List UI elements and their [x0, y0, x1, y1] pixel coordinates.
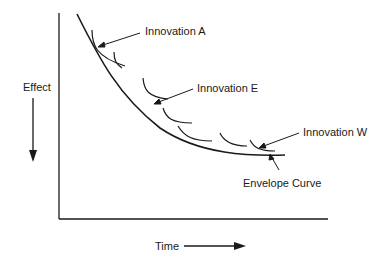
time-arrow-icon — [184, 242, 246, 250]
y-axis-label: Effect — [23, 81, 51, 93]
innovation-w-label: Innovation W — [303, 126, 367, 138]
effect-arrow-icon — [29, 98, 37, 162]
envelope-curve-label: Envelope Curve — [243, 177, 321, 189]
innovation-e-label: Innovation E — [197, 82, 258, 94]
annotation-arrows — [98, 33, 299, 170]
innovation-a-label: Innovation A — [145, 25, 206, 37]
x-axis-label: Time — [155, 240, 179, 252]
